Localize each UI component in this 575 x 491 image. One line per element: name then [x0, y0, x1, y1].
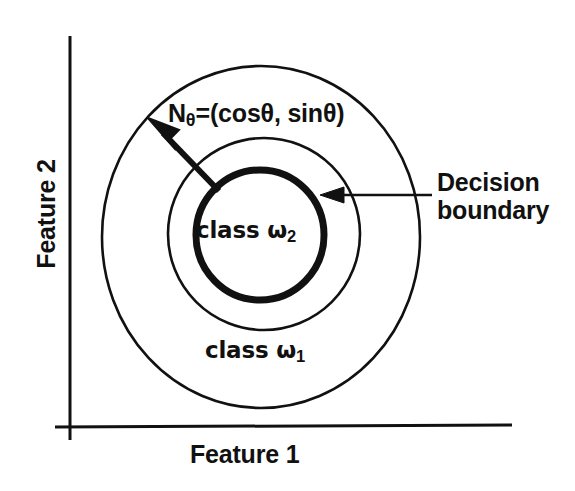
decision-boundary-arrowhead: [320, 187, 344, 203]
y-axis-label: Feature 2: [32, 144, 60, 284]
class-omega2-base: class ω: [196, 217, 287, 243]
decision-boundary-figure: Feature 2 Feature 1 Nθ=(cosθ, sinθ) Deci…: [0, 0, 575, 491]
class-omega2-subscript: 2: [287, 227, 296, 246]
normal-vector-base: N: [168, 99, 186, 127]
normal-vector-subscript: θ: [186, 110, 196, 130]
class-omega1-subscript: 1: [296, 347, 305, 366]
x-axis-line: [55, 425, 512, 427]
x-axis-label: Feature 1: [190, 440, 299, 468]
normal-vector-label: Nθ=(cosθ, sinθ): [168, 99, 344, 130]
class-omega1-base: class ω: [205, 337, 296, 363]
normal-vector-expression: =(cosθ, sinθ): [196, 99, 345, 127]
decision-boundary-line-1: Decision: [437, 168, 540, 196]
decision-boundary-line-2: boundary: [437, 196, 549, 224]
class-omega2-label: class ω2: [196, 218, 296, 246]
decision-boundary-label: Decisionboundary: [437, 168, 549, 224]
class-omega1-label: class ω1: [205, 338, 305, 366]
